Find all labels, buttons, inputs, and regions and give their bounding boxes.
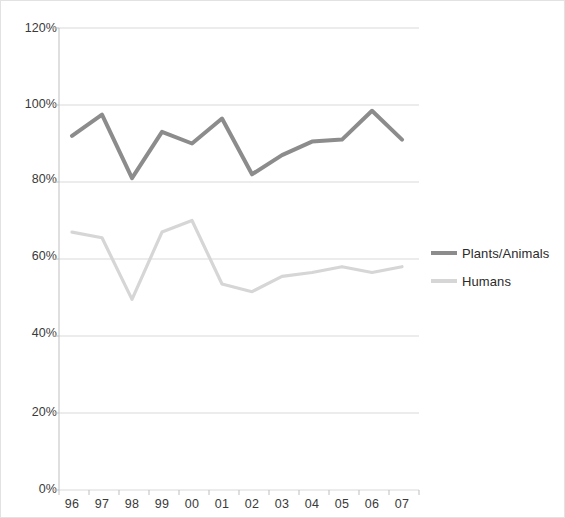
legend-item-plants-animals: Plants/Animals (431, 239, 565, 267)
x-tick-marks (59, 490, 419, 495)
legend-swatch-humans (431, 279, 457, 283)
chart-container: 120% 100% 80% 60% 40% 20% 0% 96979899000… (0, 0, 565, 518)
axis-lines (53, 28, 59, 490)
legend-label-humans: Humans (462, 274, 511, 289)
legend-swatch-plants-animals (431, 251, 457, 255)
x-tick-label-07: 07 (382, 497, 422, 511)
legend-label-plants-animals: Plants/Animals (462, 246, 549, 261)
series-lines (72, 111, 402, 300)
legend: Plants/Animals Humans (431, 239, 565, 295)
legend-item-humans: Humans (431, 267, 565, 295)
